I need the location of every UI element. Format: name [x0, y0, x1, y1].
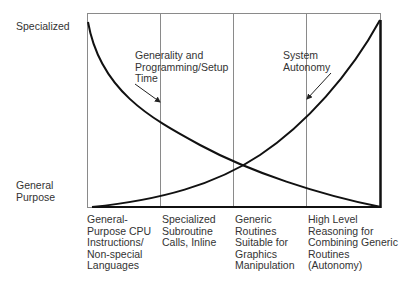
y-label-general-purpose: General Purpose: [16, 180, 55, 203]
x-label-specialized-subroutine: Specialized Subroutine Calls, Inline: [162, 214, 216, 249]
x-label-general-purpose-cpu: General- Purpose CPU Instructions/ Non-s…: [87, 214, 151, 272]
curve-generality: [88, 22, 381, 207]
x-label-generic-routines: Generic Routines Suitable for Graphics M…: [235, 214, 295, 272]
annotation-generality: Generality and Programming/Setup Time: [135, 50, 228, 85]
x-label-high-level-reasoning: High Level Reasoning for Combining Gener…: [308, 214, 398, 272]
y-label-specialized: Specialized: [16, 21, 70, 33]
arrow-generality: [135, 84, 160, 102]
annotation-autonomy: System Autonomy: [283, 50, 330, 73]
